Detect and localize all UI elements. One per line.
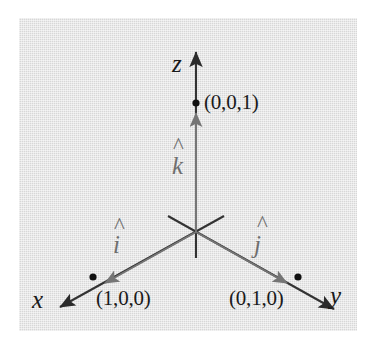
point-label-z: (0,0,1) (204, 92, 259, 113)
z-axis-label: z (172, 51, 182, 76)
j-hat-vector (196, 232, 287, 283)
x-axis-label: x (32, 287, 43, 312)
i-hat-caret-icon: ^ (114, 214, 125, 237)
point-dot-y (294, 273, 301, 280)
k-hat-label: ^ k (172, 153, 183, 178)
figure-canvas: x y z ^ i ^ j ^ k (1,0,0) (0,1,0) (0,0,1… (0, 0, 377, 346)
point-label-x: (1,0,0) (96, 288, 151, 309)
coordinate-axes-diagram (0, 0, 377, 346)
j-hat-caret-icon: ^ (257, 212, 268, 235)
point-label-y: (0,1,0) (229, 288, 284, 309)
k-hat-caret-icon: ^ (173, 134, 184, 157)
point-dot-x (89, 273, 96, 280)
point-dot-z (192, 99, 199, 106)
i-hat-label: ^ i (113, 232, 120, 257)
y-axis-label: y (330, 283, 341, 308)
j-hat-label: ^ j (254, 232, 261, 257)
